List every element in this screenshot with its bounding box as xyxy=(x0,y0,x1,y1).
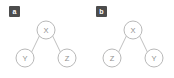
edge-root-to-left-a xyxy=(32,36,40,53)
tree-panel-b: b X Z Y xyxy=(87,0,174,78)
node-root-label-a: X xyxy=(43,26,48,35)
tree-figure: a X Y Z b X Z Y xyxy=(0,0,174,78)
edge-root-to-left-b xyxy=(119,36,127,53)
node-left-label-a: Y xyxy=(22,54,27,63)
tree-diagram-a: X Y Z xyxy=(0,0,87,78)
node-root-label-b: X xyxy=(130,26,135,35)
edge-root-to-right-b xyxy=(140,36,148,53)
node-right-label-a: Z xyxy=(65,54,70,63)
node-right-label-b: Y xyxy=(151,54,156,63)
tree-diagram-b: X Z Y xyxy=(87,0,174,78)
tree-panel-a: a X Y Z xyxy=(0,0,87,78)
node-left-label-b: Z xyxy=(110,54,115,63)
edge-root-to-right-a xyxy=(53,36,61,53)
